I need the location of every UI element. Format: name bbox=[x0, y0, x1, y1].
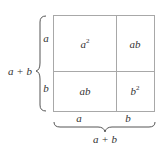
left-label: a + b bbox=[8, 66, 32, 77]
cell-base: a bbox=[81, 38, 87, 50]
cell-base: ab bbox=[80, 85, 91, 97]
col-label-a: a bbox=[76, 113, 82, 124]
outer-square bbox=[54, 16, 155, 112]
bottom-label: a + b bbox=[93, 134, 117, 145]
cell-b-squared: b2 bbox=[131, 86, 140, 97]
row-label-a: a bbox=[43, 33, 49, 44]
cell-ab-bottom: ab bbox=[80, 86, 91, 97]
cell-exponent: 2 bbox=[136, 84, 140, 92]
row-label-b: b bbox=[43, 83, 49, 94]
col-label-b: b bbox=[125, 113, 131, 124]
cell-exponent: 2 bbox=[86, 37, 90, 45]
cell-a-squared: a2 bbox=[81, 39, 90, 50]
cell-base: ab bbox=[130, 38, 141, 50]
left-brace bbox=[36, 16, 46, 111]
cell-ab-top: ab bbox=[130, 39, 141, 50]
cell-base: b bbox=[131, 85, 137, 97]
bottom-brace bbox=[54, 122, 155, 132]
